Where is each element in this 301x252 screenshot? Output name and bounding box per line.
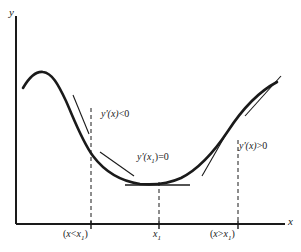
function-curve <box>23 72 277 184</box>
annotation-positive-value: 0 <box>262 140 267 151</box>
tick-right-close-paren: ) <box>231 228 234 239</box>
annotation-derivative-negative: y'(x)<0 <box>101 109 129 119</box>
tangent-line-negative-upper <box>73 95 89 134</box>
annotation-zero-value: 0 <box>164 151 169 162</box>
annotation-derivative-zero: y'(x1)=0 <box>137 152 169 162</box>
annotation-negative-value: 0 <box>124 108 129 119</box>
annotation-derivative-positive: y'(x)>0 <box>239 141 267 151</box>
tick-left-close-paren: ) <box>84 228 87 239</box>
derivative-sign-figure: y x y'(x)<0 y'(x1)=0 y'(x)>0 (x<x1) x1 (… <box>0 0 301 252</box>
tick-right-subscript: 1 <box>228 234 232 242</box>
x-tick-label-min: x1 <box>153 229 161 239</box>
x-axis-label: x <box>288 216 293 227</box>
annotation-negative-expr: y'(x) <box>101 108 119 119</box>
x-tick-label-left: (x<x1) <box>63 229 88 239</box>
tangent-line-negative-lower <box>100 152 134 176</box>
y-axis-label: y <box>9 7 14 18</box>
x-tick-label-right: (x>x1) <box>210 229 235 239</box>
annotation-positive-expr: y'(x) <box>239 140 257 151</box>
figure-canvas <box>0 0 301 252</box>
tick-left-subscript: 1 <box>81 234 85 242</box>
tick-min-subscript: 1 <box>157 234 161 242</box>
annotation-zero-subscript: 1 <box>151 157 155 165</box>
annotation-zero-expr: y'(x <box>137 151 151 162</box>
